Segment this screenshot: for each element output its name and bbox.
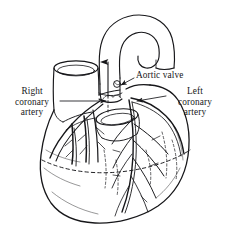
leader-aortic-valve: [121, 78, 134, 85]
label-aortic-valve: Aortic valve: [136, 70, 222, 81]
label-left-coronary-artery-line-2: coronary: [166, 97, 224, 108]
label-right-coronary-artery-line-1: Right: [4, 86, 60, 97]
heart-anatomy-drawing: [0, 0, 228, 242]
label-right-coronary-artery: Right coronary artery: [4, 86, 60, 118]
label-right-coronary-artery-line-3: artery: [4, 107, 60, 118]
leader-left-coronary-artery: [137, 96, 166, 101]
label-left-coronary-artery-line-1: Left: [166, 86, 224, 97]
leader-lines: [60, 78, 166, 101]
label-left-coronary-artery-line-3: artery: [166, 107, 224, 118]
label-right-coronary-artery-line-2: coronary: [4, 97, 60, 108]
heart-coronary-artery-figure: Right coronary artery Aortic valve Left …: [0, 0, 228, 242]
label-aortic-valve-line-1: Aortic valve: [136, 70, 222, 81]
label-left-coronary-artery: Left coronary artery: [166, 86, 224, 118]
